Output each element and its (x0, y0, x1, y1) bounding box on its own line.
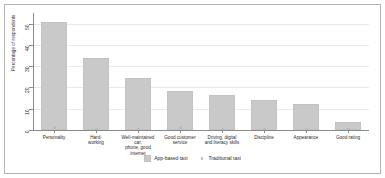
y-axis-tick-mark (29, 24, 33, 25)
y-axis-tick-label: 10 (26, 109, 31, 115)
y-axis-tick-label: 30 (26, 67, 31, 73)
y-axis-tick-label: 50 (26, 24, 31, 30)
traditional-taxi-marker[interactable] (179, 126, 182, 129)
legend-item-label: Traditional taxi (209, 156, 241, 161)
bar[interactable] (167, 91, 193, 130)
x-axis-tick-mark (264, 130, 265, 133)
x-axis-tick-label: Discipline (243, 135, 285, 156)
x-axis-tick-mark (306, 130, 307, 133)
traditional-taxi-marker[interactable] (53, 126, 56, 129)
x-axis-tick-mark (348, 130, 349, 133)
bar-series-group (33, 13, 369, 130)
bar[interactable] (293, 104, 319, 130)
bar-slot (75, 13, 117, 130)
legend-item[interactable]: App-based taxi (144, 155, 187, 162)
bar[interactable] (251, 100, 277, 130)
y-axis-tick-mark (29, 45, 33, 46)
bar[interactable] (83, 58, 109, 130)
legend-item[interactable]: Traditional taxi (199, 155, 241, 162)
y-axis-tick-mark (29, 87, 33, 88)
y-axis-line (33, 13, 34, 130)
x-axis-tick-mark (138, 130, 139, 133)
y-axis-tick-label: 20 (26, 88, 31, 94)
x-axis-tick-label: Personality (33, 135, 75, 156)
y-axis-tick-labels: 01020304050 (0, 0, 28, 178)
bar-slot (327, 13, 369, 130)
legend-square-swatch-icon (144, 155, 151, 162)
bar[interactable] (335, 122, 361, 131)
y-axis-tick-label: 40 (26, 45, 31, 51)
x-axis-tick-mark (96, 130, 97, 133)
plot-area (33, 13, 369, 130)
bar-slot (243, 13, 285, 130)
bar[interactable] (41, 22, 67, 130)
chart-legend: App-based taxiTraditional taxi (0, 155, 385, 162)
x-axis-tick-mark (180, 130, 181, 133)
x-axis-tick-label: Good rating (327, 135, 369, 156)
bar-slot (285, 13, 327, 130)
x-axis-tick-label: Good customerservice (159, 135, 201, 156)
x-axis-tick-label: Appearance (285, 135, 327, 156)
bar-slot (201, 13, 243, 130)
y-axis-tick-mark (29, 130, 33, 131)
x-axis-tick-label: Driving, digitaland literacy skills (201, 135, 243, 156)
x-axis-tick-mark (222, 130, 223, 133)
legend-dot-marker-icon (199, 155, 206, 162)
x-axis-tick-mark (54, 130, 55, 133)
x-axis-line (33, 130, 369, 131)
chart-figure: Percentage of respondents 01020304050 Pe… (0, 0, 385, 178)
y-axis-tick-mark (29, 109, 33, 110)
y-axis-tick-mark (29, 66, 33, 67)
bar[interactable] (209, 95, 235, 130)
x-axis-tick-label: Hard-working (75, 135, 117, 156)
bar-slot (159, 13, 201, 130)
legend-item-label: App-based taxi (154, 156, 187, 161)
bar-slot (117, 13, 159, 130)
x-axis-tick-labels: PersonalityHard-workingWell-maintained c… (33, 135, 369, 156)
bar-slot (33, 13, 75, 130)
x-axis-tick-label: Well-maintained car,phone, good internet (117, 135, 159, 156)
bar[interactable] (125, 78, 151, 130)
